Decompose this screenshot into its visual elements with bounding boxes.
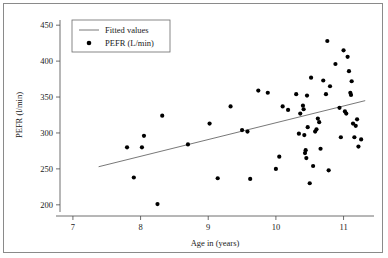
data-point	[256, 88, 260, 92]
legend-marker-pefr	[87, 41, 92, 46]
data-point	[349, 93, 353, 97]
data-point	[352, 135, 356, 139]
data-point	[318, 147, 322, 151]
data-point	[132, 175, 136, 179]
data-point	[321, 78, 325, 82]
data-point	[344, 111, 348, 115]
data-point	[216, 176, 220, 180]
data-point	[266, 91, 270, 95]
data-point	[142, 134, 146, 138]
fitted-values-line	[99, 101, 366, 167]
data-point	[317, 120, 321, 124]
data-point	[306, 125, 310, 129]
data-point	[294, 92, 298, 96]
data-point	[324, 92, 328, 96]
x-tick-label: 7	[71, 222, 75, 232]
data-point	[328, 84, 332, 88]
data-point	[302, 107, 306, 111]
data-point	[245, 129, 249, 133]
y-axis-title: PEFR (l/min)	[14, 92, 24, 138]
x-axis-title: Age in (years)	[191, 238, 240, 248]
y-tick-label: 400	[40, 56, 53, 66]
data-point	[277, 155, 281, 159]
data-point	[304, 148, 308, 152]
data-point	[354, 124, 358, 128]
data-point	[333, 62, 337, 66]
data-point	[240, 128, 244, 132]
data-point	[207, 122, 211, 126]
data-point	[309, 76, 313, 80]
data-point	[155, 202, 159, 206]
y-tick-label: 450	[40, 20, 53, 30]
data-point	[337, 106, 341, 110]
data-point	[346, 55, 350, 59]
data-point	[356, 145, 360, 149]
data-point	[125, 145, 129, 149]
data-point	[359, 137, 363, 141]
x-tick-label: 9	[206, 222, 210, 232]
data-point	[186, 142, 190, 146]
data-point	[339, 135, 343, 139]
data-point	[286, 108, 290, 112]
legend-label-fitted-values: Fitted values	[105, 25, 149, 35]
data-point	[281, 104, 285, 108]
x-tick-label: 11	[339, 222, 347, 232]
x-tick-label: 10	[272, 222, 281, 232]
data-point	[274, 167, 278, 171]
data-point	[350, 79, 354, 83]
y-tick-label: 350	[40, 92, 53, 102]
x-tick-label: 8	[138, 222, 142, 232]
data-point	[160, 114, 164, 118]
data-point	[347, 69, 351, 73]
y-tick-label: 300	[40, 128, 53, 138]
data-point	[314, 127, 318, 131]
data-point	[308, 181, 312, 185]
data-point	[305, 94, 309, 98]
scatter-chart: 2002503003504004507891011Age in (years)P…	[4, 4, 382, 252]
data-point	[304, 156, 308, 160]
y-tick-label: 250	[40, 164, 53, 174]
data-point	[327, 168, 331, 172]
data-point	[316, 116, 320, 120]
data-point	[325, 39, 329, 43]
data-point	[140, 145, 144, 149]
figure-frame: 2002503003504004507891011Age in (years)P…	[3, 3, 383, 253]
data-point	[301, 104, 305, 108]
data-point	[297, 132, 301, 136]
data-point	[298, 111, 302, 115]
data-point	[302, 133, 306, 137]
data-point	[341, 48, 345, 52]
data-point	[248, 177, 252, 181]
data-point	[228, 104, 232, 108]
y-tick-label: 200	[40, 200, 53, 210]
data-point	[355, 117, 359, 121]
legend-label-pefr: PEFR (L/min)	[105, 38, 154, 48]
data-point	[311, 164, 315, 168]
